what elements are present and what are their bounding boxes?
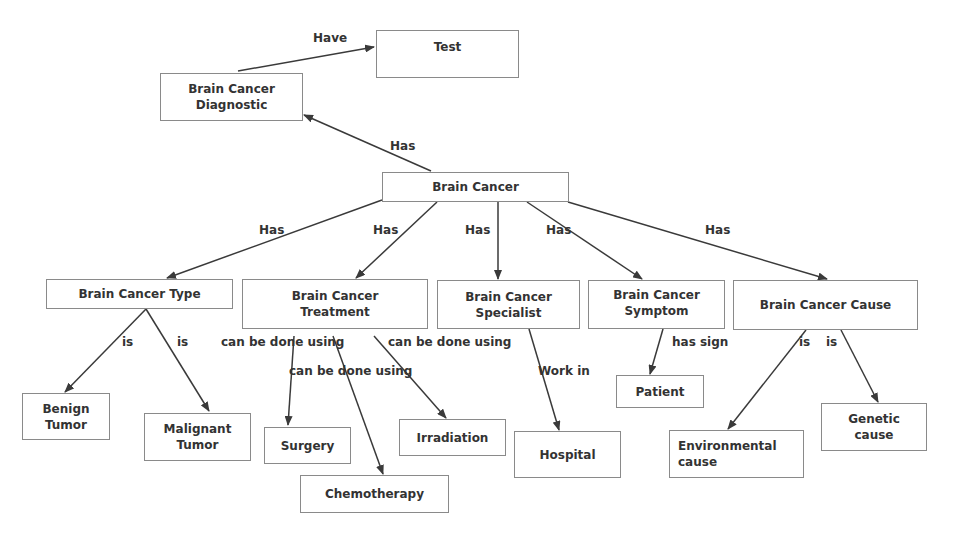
node-brain-cancer-label: Brain Cancer (432, 179, 519, 195)
concept-map: Test Brain Cancer Diagnostic Brain Cance… (0, 0, 954, 534)
node-cause-label: Brain Cancer Cause (760, 297, 892, 313)
edge-label-using-irradiation: can be done using (388, 335, 511, 349)
edge-has-symptom (527, 202, 642, 279)
node-surgery[interactable]: Surgery (264, 427, 351, 464)
edge-label-has-symptom: Has (546, 223, 571, 237)
edge-label-has-cause: Has (705, 223, 730, 237)
node-surgery-label: Surgery (281, 438, 335, 454)
node-environmental-cause[interactable]: Environmental cause (669, 430, 804, 478)
node-genetic-line2: cause (854, 427, 893, 443)
node-benign-line2: Tumor (45, 417, 87, 433)
edge-has-treatment (356, 202, 437, 278)
edge-label-is-malignant: is (177, 335, 188, 349)
edge-has-cause (568, 202, 827, 279)
edge-has-type (167, 200, 382, 278)
edge-label-has-type: Has (259, 223, 284, 237)
node-specialist-line2: Specialist (476, 305, 542, 321)
edge-label-have: Have (313, 31, 347, 45)
node-diagnostic-line2: Diagnostic (196, 97, 268, 113)
node-chemotherapy-label: Chemotherapy (325, 486, 424, 502)
edge-label-using-surgery: can be done using (221, 335, 344, 349)
node-benign-line1: Benign (42, 401, 89, 417)
node-irradiation[interactable]: Irradiation (399, 419, 506, 456)
node-environmental-line2: cause (678, 454, 717, 470)
edge-has-sign (650, 329, 663, 374)
edge-label-using-chemo: can be done using (289, 364, 412, 378)
node-treatment-line2: Treatment (300, 304, 370, 320)
node-environmental-line1: Environmental (678, 438, 777, 454)
node-symptom-line1: Brain Cancer (613, 287, 700, 303)
node-brain-cancer-diagnostic[interactable]: Brain Cancer Diagnostic (160, 73, 303, 121)
node-genetic-line1: Genetic (848, 411, 900, 427)
node-hospital-label: Hospital (539, 447, 595, 463)
node-malignant-line1: Malignant (164, 421, 232, 437)
node-test[interactable]: Test (376, 30, 519, 78)
node-hospital[interactable]: Hospital (514, 431, 621, 478)
edge-label-has-sign: has sign (672, 335, 728, 349)
node-brain-cancer-treatment[interactable]: Brain Cancer Treatment (242, 279, 428, 329)
edge-label-work-in: Work in (538, 364, 590, 378)
node-type-label: Brain Cancer Type (78, 286, 200, 302)
node-brain-cancer[interactable]: Brain Cancer (382, 172, 569, 202)
edge-work-in (529, 329, 559, 430)
edge-is-genetic (841, 330, 878, 402)
edge-is-benign (65, 309, 146, 392)
edge-label-is-environmental: is (799, 335, 810, 349)
edge-using-surgery (288, 336, 294, 425)
node-symptom-line2: Symptom (624, 303, 688, 319)
edge-is-environmental (728, 330, 806, 429)
node-specialist-line1: Brain Cancer (465, 289, 552, 305)
edge-label-is-benign: is (122, 335, 133, 349)
node-brain-cancer-type[interactable]: Brain Cancer Type (46, 279, 233, 309)
edge-label-is-genetic: is (826, 335, 837, 349)
node-benign-tumor[interactable]: Benign Tumor (22, 393, 110, 440)
node-test-label: Test (434, 39, 462, 55)
node-chemotherapy[interactable]: Chemotherapy (300, 475, 449, 513)
edge-label-has-specialist: Has (465, 223, 490, 237)
node-brain-cancer-symptom[interactable]: Brain Cancer Symptom (588, 280, 725, 329)
edge-is-malignant (146, 309, 209, 411)
node-malignant-tumor[interactable]: Malignant Tumor (144, 413, 251, 461)
edge-label-has-diagnostic: Has (390, 139, 415, 153)
edge-label-has-treatment: Has (373, 223, 398, 237)
node-patient-label: Patient (636, 384, 685, 400)
node-diagnostic-line1: Brain Cancer (188, 81, 275, 97)
node-irradiation-label: Irradiation (417, 430, 489, 446)
node-brain-cancer-specialist[interactable]: Brain Cancer Specialist (437, 280, 580, 329)
node-treatment-line1: Brain Cancer (292, 288, 379, 304)
node-genetic-cause[interactable]: Genetic cause (821, 403, 927, 451)
node-patient[interactable]: Patient (616, 375, 704, 408)
edge-have-test (238, 47, 374, 71)
node-brain-cancer-cause[interactable]: Brain Cancer Cause (733, 280, 918, 330)
node-malignant-line2: Tumor (176, 437, 218, 453)
